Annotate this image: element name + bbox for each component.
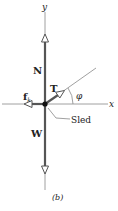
sled-leader-line — [48, 108, 70, 119]
tension-force-label: T — [50, 83, 58, 94]
sled-body-dot — [42, 101, 47, 106]
arrowhead-icon — [42, 34, 49, 42]
figure-caption: (b) — [52, 193, 63, 202]
arrowhead-icon — [42, 166, 49, 174]
weight-force-label: W — [30, 128, 43, 139]
friction-force-label: fk — [23, 91, 31, 103]
y-axis-label: y — [41, 2, 48, 12]
normal-force-label: N — [33, 65, 42, 76]
sled-label: Sled — [71, 115, 91, 125]
weight-vector — [42, 104, 49, 174]
angle-arc — [68, 88, 73, 104]
x-axis-label: x — [109, 99, 114, 109]
normal-force-vector — [42, 34, 49, 104]
angle-label: φ — [76, 91, 83, 101]
free-body-diagram: y x N W fk T φ Sled (b) — [0, 0, 118, 211]
